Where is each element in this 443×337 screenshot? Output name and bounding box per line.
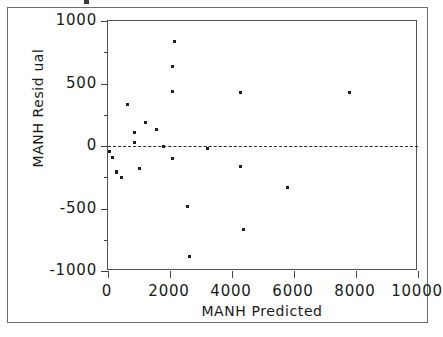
data-point <box>188 255 191 258</box>
x-tick-label: 2000 <box>148 282 189 300</box>
y-tick-minor <box>104 52 108 53</box>
x-tick-label: 4000 <box>210 282 251 300</box>
y-tick-major <box>101 209 108 210</box>
data-point <box>242 228 245 231</box>
data-point <box>126 103 129 106</box>
y-tick-label: -1000 <box>7 261 97 279</box>
data-point <box>111 156 114 159</box>
data-point <box>171 65 174 68</box>
y-tick-major <box>101 271 108 272</box>
data-point <box>173 40 176 43</box>
data-point <box>133 141 136 144</box>
x-tick-label: 8000 <box>334 282 375 300</box>
data-point <box>115 171 118 174</box>
data-point <box>133 131 136 134</box>
x-tick-major <box>418 271 419 278</box>
y-tick-major <box>101 146 108 147</box>
data-point <box>239 165 242 168</box>
data-point <box>171 90 174 93</box>
x-tick-major <box>294 271 295 278</box>
x-tick-major <box>108 271 109 278</box>
y-tick-minor <box>104 240 108 241</box>
data-point <box>120 176 123 179</box>
top-stray-mark <box>84 0 89 4</box>
x-axis-title: MANH Predicted <box>107 303 417 319</box>
data-point <box>348 91 351 94</box>
plot-area <box>107 20 417 270</box>
data-point <box>138 167 141 170</box>
zero-reference-line <box>108 146 418 147</box>
y-tick-label: -500 <box>7 199 97 217</box>
y-tick-label: 1000 <box>7 11 97 29</box>
x-tick-major <box>232 271 233 278</box>
y-tick-label: 0 <box>7 136 97 154</box>
y-tick-minor <box>104 115 108 116</box>
x-tick-label: 0 <box>102 282 112 300</box>
y-tick-label: 500 <box>7 74 97 92</box>
data-point <box>162 145 165 148</box>
y-tick-major <box>101 84 108 85</box>
data-point <box>206 147 209 150</box>
data-point <box>171 157 174 160</box>
x-tick-label: 6000 <box>272 282 313 300</box>
data-point <box>155 128 158 131</box>
data-point <box>186 205 189 208</box>
y-tick-major <box>101 21 108 22</box>
x-tick-major <box>170 271 171 278</box>
data-point <box>144 121 147 124</box>
x-tick-label: 10000 <box>391 282 443 300</box>
data-point <box>286 186 289 189</box>
data-point <box>108 150 111 153</box>
y-axis-title: MANH Resid ual <box>30 8 46 208</box>
data-point <box>239 91 242 94</box>
x-tick-major <box>356 271 357 278</box>
y-tick-minor <box>104 177 108 178</box>
